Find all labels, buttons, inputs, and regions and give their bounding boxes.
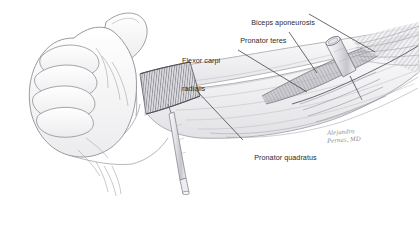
label-pronator-teres: Pronator teres [232, 27, 286, 55]
label-pronator-teres-text: Pronator teres [240, 36, 286, 45]
label-biceps-aponeurosis-text: Biceps aponeurosis [251, 18, 315, 27]
label-flexor-carpi-radialis-line1: Flexor carpi [182, 56, 220, 65]
label-pronator-quadratus: Pronator quadratus [246, 144, 317, 172]
label-flexor-carpi-radialis-line2: radialis [182, 84, 220, 93]
illustration-canvas [0, 0, 420, 233]
label-flexor-carpi-radialis: Flexor carpi radialis [182, 38, 220, 112]
label-pronator-quadratus-text: Pronator quadratus [254, 153, 316, 162]
artist-signature-line2: Pernas, MD [327, 134, 361, 144]
fingers [33, 45, 99, 137]
anatomy-figure: Biceps aponeurosis Pronator teres Flexor… [0, 0, 420, 233]
finger-little [37, 107, 94, 137]
artist-signature: Alejandro Pernas, MD [327, 129, 361, 144]
